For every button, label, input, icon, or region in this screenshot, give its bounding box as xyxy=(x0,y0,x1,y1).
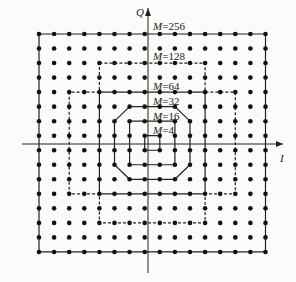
label-m64: M=64 xyxy=(152,80,180,92)
q-axis-arrow-icon xyxy=(145,8,151,16)
label-m256: M=256 xyxy=(152,20,185,32)
i-axis-arrow-icon xyxy=(276,141,283,147)
i-axis-label: I xyxy=(279,152,285,164)
constellation-diagram: Q I M=256 M=128 M=64 M=32 M=16 M=4 xyxy=(0,0,296,282)
constellation-points xyxy=(37,32,268,255)
label-m4: M=4 xyxy=(152,124,174,136)
label-m16: M=16 xyxy=(152,110,180,122)
svg-text:M=32: M=32 xyxy=(152,95,179,107)
svg-text:M=16: M=16 xyxy=(152,110,180,122)
svg-text:M=4: M=4 xyxy=(152,124,174,136)
label-m32: M=32 xyxy=(152,95,179,107)
constellation-plot: Q I M=256 M=128 M=64 M=32 M=16 M=4 xyxy=(0,0,296,282)
svg-text:M=64: M=64 xyxy=(152,80,180,92)
label-m128: M=128 xyxy=(152,50,185,62)
svg-text:M=128: M=128 xyxy=(152,50,185,62)
svg-text:M=256: M=256 xyxy=(152,20,185,32)
axes xyxy=(22,8,283,273)
boundary-lines xyxy=(39,34,266,252)
q-axis-label: Q xyxy=(136,6,144,18)
